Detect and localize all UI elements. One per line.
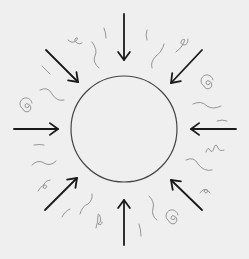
inward-flow-diagram (0, 0, 249, 259)
squiggle-short (34, 145, 44, 146)
